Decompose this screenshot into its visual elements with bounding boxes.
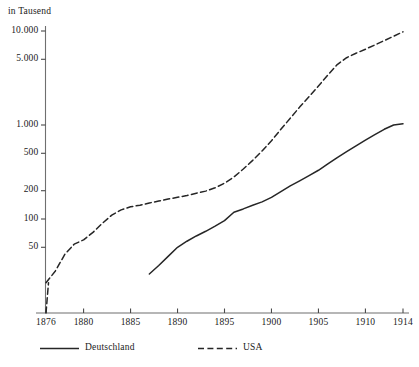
line-chart: in Tausend 10.0005.0001.00050020010050 1… [0,0,419,367]
y-tick-label: 50 [29,241,39,251]
x-tick-label: 1910 [347,317,383,327]
y-tick-label: 5.000 [16,53,38,63]
y-tick-label: 500 [24,147,39,157]
legend-label-usa: USA [243,342,263,352]
series-line-deutschland [149,124,403,274]
y-tick-label: 100 [24,213,39,223]
y-tick-label: 10.000 [11,25,38,35]
x-tick-label: 1900 [253,317,289,327]
x-tick-label: 1895 [207,317,243,327]
x-tick-label: 1880 [66,317,102,327]
y-tick-label: 1.000 [16,119,38,129]
y-axis-unit-label: in Tausend [8,6,51,16]
x-tick-label: 1914 [385,317,419,327]
y-tick-label: 200 [24,184,39,194]
x-tick-label: 1885 [113,317,149,327]
data-series [46,32,403,313]
plot-area [0,0,419,367]
x-tick-label: 1876 [28,317,64,327]
series-line-usa-origin [46,283,49,313]
series-line-usa [46,32,403,283]
legend-label-deutschland: Deutschland [85,342,135,352]
x-tick-label: 1890 [160,317,196,327]
x-tick-label: 1905 [300,317,336,327]
axes [36,26,409,313]
